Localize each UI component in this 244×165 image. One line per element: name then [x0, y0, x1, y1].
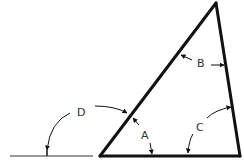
angle-label-a: A — [141, 129, 149, 142]
angle-b-arrow-left — [181, 55, 192, 60]
angle-a-arrow-upper — [133, 118, 139, 125]
angle-a-arrow-lower — [150, 143, 152, 154]
angle-label-c: C — [196, 121, 204, 134]
angle-d-arc-left-arrow — [47, 113, 70, 150]
angle-c-arrow-lower — [188, 134, 193, 153]
angle-c-arrow-upper — [207, 107, 231, 118]
angle-label-d: D — [77, 106, 85, 119]
angle-label-b: B — [197, 57, 205, 70]
angle-d-arc-right-arrow — [95, 106, 127, 113]
triangle-angle-diagram: D A B C — [0, 0, 244, 165]
triangle-right-side — [216, 3, 240, 156]
triangle — [100, 3, 240, 156]
